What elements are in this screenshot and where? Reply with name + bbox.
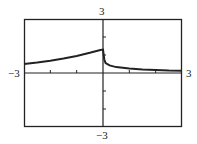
y-max-label: 3 [99,6,105,17]
x-max-label: 3 [186,68,192,79]
x-min-label: −3 [8,68,20,79]
y-min-label: −3 [96,130,108,141]
chart-plot [0,0,197,144]
